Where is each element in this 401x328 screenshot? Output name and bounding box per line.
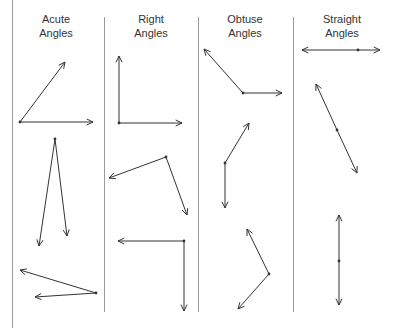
- vertex-dot: [19, 121, 22, 124]
- vertex-dot: [336, 129, 339, 132]
- angle-right: [116, 56, 182, 126]
- column-title-straight: Straight Angles: [296, 12, 388, 40]
- angle-straight: [316, 84, 357, 173]
- vertex-dot: [357, 49, 360, 52]
- vertex-dot: [268, 273, 271, 276]
- angle-obtuse: [222, 123, 249, 208]
- vertex-dot: [95, 292, 98, 295]
- ray: [247, 229, 269, 274]
- angle-right: [118, 238, 187, 311]
- ray: [109, 157, 166, 178]
- ray: [316, 84, 337, 130]
- ray: [55, 139, 67, 236]
- title-line: Straight: [296, 12, 388, 26]
- ray: [35, 293, 96, 297]
- angle-straight: [302, 47, 380, 53]
- vertex-dot: [54, 138, 57, 141]
- angle-acute: [19, 62, 93, 125]
- ray: [225, 123, 249, 163]
- title-line: Right: [105, 12, 197, 26]
- ray: [20, 62, 65, 122]
- vertex-dot: [183, 240, 186, 243]
- angles-canvas: [0, 0, 401, 328]
- vertex-dot: [118, 122, 121, 125]
- angle-obtuse: [204, 49, 282, 96]
- title-line: Angles: [10, 26, 102, 40]
- title-line: Angles: [105, 26, 197, 40]
- angle-types-diagram: Acute Angles Right Angles Obtuse Angles …: [0, 0, 401, 328]
- title-line: Angles: [199, 26, 291, 40]
- arrowhead-icon: [243, 123, 249, 130]
- title-line: Angles: [296, 26, 388, 40]
- title-line: Obtuse: [199, 12, 291, 26]
- ray: [166, 157, 187, 215]
- vertex-dot: [224, 162, 227, 165]
- vertex-dot: [338, 260, 341, 263]
- ray: [337, 130, 357, 173]
- angle-straight: [336, 215, 342, 305]
- angle-obtuse: [238, 229, 270, 309]
- ray: [204, 49, 243, 93]
- vertex-dot: [242, 92, 245, 95]
- angles-layer: [19, 47, 380, 311]
- column-title-obtuse: Obtuse Angles: [199, 12, 291, 40]
- ray: [20, 270, 96, 293]
- column-title-right: Right Angles: [105, 12, 197, 40]
- title-line: Acute: [10, 12, 102, 26]
- angle-right: [109, 156, 188, 215]
- vertex-dot: [165, 156, 168, 159]
- column-title-acute: Acute Angles: [10, 12, 102, 40]
- ray: [238, 274, 269, 309]
- ray: [39, 139, 55, 246]
- angle-acute: [20, 269, 97, 300]
- angle-acute: [37, 138, 69, 246]
